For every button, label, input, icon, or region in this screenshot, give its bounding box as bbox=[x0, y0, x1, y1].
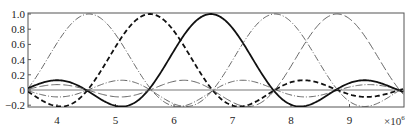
x-tick-label: 6 bbox=[171, 114, 177, 126]
x-tick-label: 8 bbox=[288, 114, 294, 126]
x-tick-label: 5 bbox=[113, 114, 119, 126]
x-tick-label: 4 bbox=[54, 114, 60, 126]
x-tick-label: 7 bbox=[230, 114, 236, 126]
x-multiplier-label: ×106 bbox=[384, 114, 405, 127]
y-tick-label: 0 bbox=[20, 84, 26, 96]
y-tick-label: 0.2 bbox=[11, 69, 25, 81]
y-tick-label: 0.4 bbox=[11, 54, 25, 66]
y-tick-label: 0.6 bbox=[11, 38, 25, 50]
x-tick-label: 9 bbox=[347, 114, 353, 126]
line-chart: −0.200.20.40.60.81.0 456789 ×106 bbox=[0, 0, 419, 131]
series-group bbox=[28, 14, 404, 107]
y-tick-label: 1.0 bbox=[11, 8, 25, 20]
y-tick-label: 0.8 bbox=[11, 23, 25, 35]
y-tick-label: −0.2 bbox=[5, 99, 25, 111]
y-axis: −0.200.20.40.60.81.0 bbox=[5, 8, 31, 111]
series-kernel-2 bbox=[28, 14, 404, 107]
